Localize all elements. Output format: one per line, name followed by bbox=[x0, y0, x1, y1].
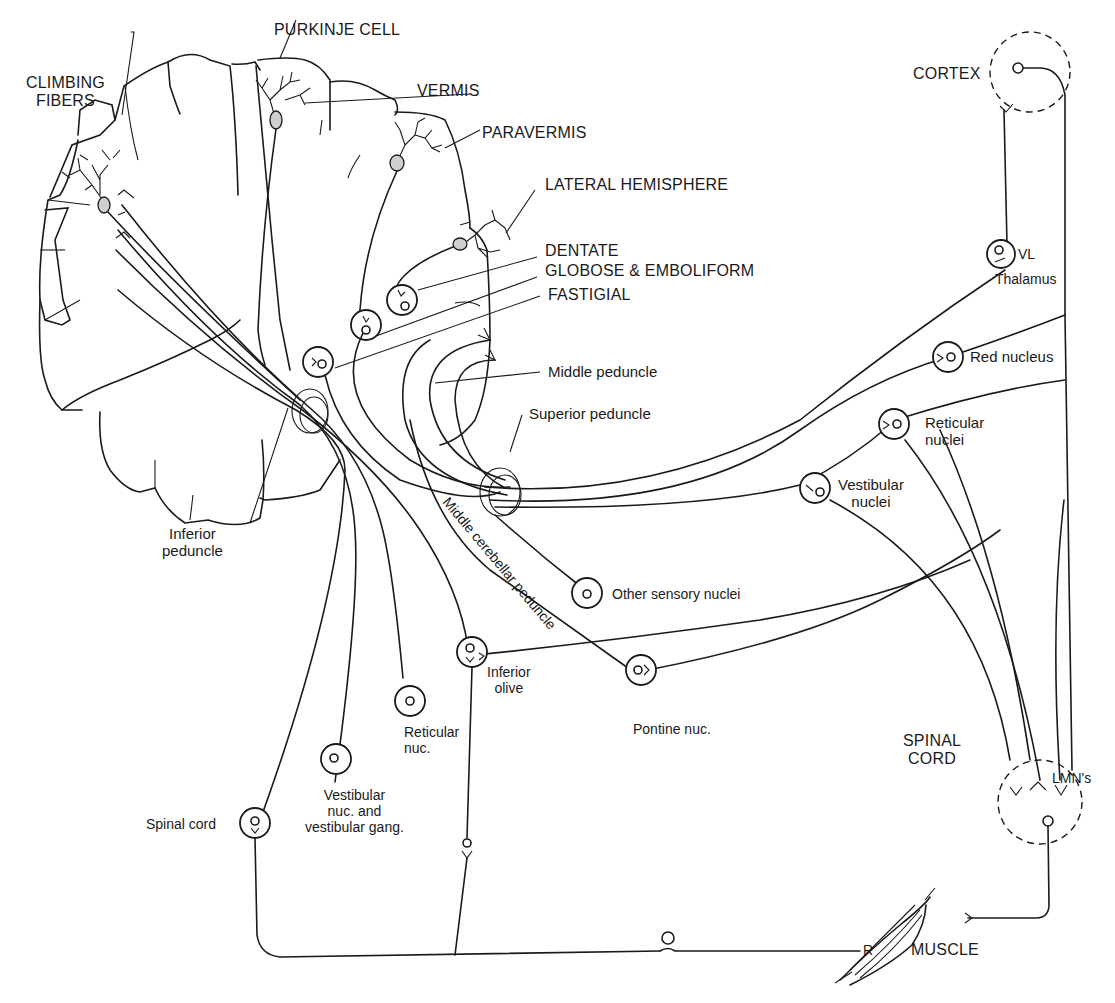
label-climbing-fibers: CLIMBING FIBERS bbox=[26, 74, 105, 111]
label-pontine-nuc: Pontine nuc. bbox=[633, 721, 711, 737]
dentate-nucleus bbox=[387, 285, 417, 315]
label-fastigial: FASTIGIAL bbox=[548, 286, 631, 304]
label-lateral-hemisphere: LATERAL HEMISPHERE bbox=[545, 176, 728, 194]
label-dentate: DENTATE bbox=[545, 242, 619, 260]
label-cortex: CORTEX bbox=[913, 65, 981, 83]
label-lmns: LMN's bbox=[1052, 770, 1091, 786]
label-superior-peduncle: Superior peduncle bbox=[529, 405, 651, 422]
label-red-nucleus: Red nucleus bbox=[970, 348, 1053, 365]
label-reticular-nuc: Reticular nuc. bbox=[404, 724, 459, 756]
label-vestibular-nuclei: Vestibular nuclei bbox=[838, 476, 904, 511]
label-other-sensory-nuclei: Other sensory nuclei bbox=[612, 586, 740, 602]
label-receptor: R bbox=[863, 942, 873, 958]
cortex-region bbox=[990, 32, 1070, 112]
label-vestibular-nuc: Vestibular nuc. and vestibular gang. bbox=[305, 787, 404, 835]
label-spinal-cord: Spinal cord bbox=[146, 816, 216, 832]
label-globose-emboliform: GLOBOSE & EMBOLIFORM bbox=[545, 262, 754, 280]
label-muscle: MUSCLE bbox=[911, 941, 979, 959]
label-spinal-cord-caps: SPINAL CORD bbox=[903, 732, 961, 769]
label-purkinje-cell: PURKINJE CELL bbox=[274, 21, 400, 39]
cerebellar-pathways-diagram bbox=[0, 0, 1115, 1003]
label-vl: VL bbox=[1018, 246, 1035, 262]
vestibular-nuclei bbox=[800, 473, 830, 503]
label-thalamus: Thalamus bbox=[995, 271, 1056, 287]
label-vermis: VERMIS bbox=[417, 82, 480, 100]
label-paravermis: PARAVERMIS bbox=[482, 124, 587, 142]
afferent-sources bbox=[240, 578, 860, 957]
label-inferior-olive: Inferior olive bbox=[487, 664, 531, 696]
deep-nuclei bbox=[303, 285, 417, 377]
label-reticular-nuclei: Reticular nuclei bbox=[925, 414, 984, 449]
label-inferior-peduncle: Inferior peduncle bbox=[162, 525, 223, 560]
label-middle-peduncle: Middle peduncle bbox=[548, 363, 657, 380]
muscle-icon bbox=[835, 888, 935, 985]
middle-cerebellar-peduncle-fibers bbox=[410, 420, 1000, 670]
